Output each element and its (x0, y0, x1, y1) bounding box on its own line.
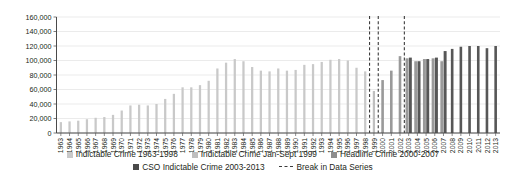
legend-row-2: CSO Indictable Crime 2003-2013 Break in … (0, 163, 506, 173)
bar (312, 64, 314, 133)
bar (147, 105, 149, 133)
legend-item-headline-2000-2007: Headline Crime 2000-2007 (331, 150, 439, 160)
bar (355, 68, 357, 133)
bar (347, 61, 349, 134)
y-axis-tick-label: 100,000 (26, 56, 52, 65)
legend-swatch-cso-2003-2013 (133, 164, 139, 170)
bar (242, 61, 244, 133)
y-axis-tick-label: 0 (48, 129, 52, 138)
legend-item-indictable-jan-sept-1999: Indictable Crime Jan-Sept 1999 (192, 150, 317, 160)
bar (444, 51, 447, 133)
crime-statistics-bar-chart: 160,000140,000120,000100,00080,00060,000… (0, 0, 506, 192)
bar (451, 49, 454, 133)
bar (164, 99, 166, 133)
bar (435, 58, 438, 133)
bar (329, 60, 331, 133)
y-axis-tick-label: 60,000 (30, 85, 52, 94)
bar (477, 46, 480, 133)
legend-label-break-in-data-series: Break in Data Series (297, 163, 373, 173)
bar (321, 62, 323, 133)
bar (129, 105, 131, 133)
bar (60, 122, 62, 133)
y-axis-tick-label: 80,000 (30, 71, 52, 80)
bar (225, 63, 227, 133)
bar (155, 104, 157, 133)
bar (390, 71, 393, 133)
bar (303, 65, 305, 133)
bar (486, 48, 489, 133)
legend-item-cso-2003-2013: CSO Indictable Crime 2003-2013 (133, 163, 264, 173)
bar (181, 87, 183, 133)
bar (103, 117, 105, 133)
legend-swatch-indictable-jan-sept-1999 (192, 152, 198, 158)
bar (251, 67, 253, 133)
bar (199, 85, 201, 133)
legend-label-indictable-jan-sept-1999: Indictable Crime Jan-Sept 1999 (201, 150, 317, 160)
bar (373, 91, 375, 133)
legend-item-indictable-1963-1998: Indictable Crime 1963-1998 (67, 150, 178, 160)
bar (440, 61, 443, 133)
legend-label-indictable-1963-1998: Indictable Crime 1963-1998 (76, 150, 178, 160)
bar (399, 56, 402, 133)
y-axis-tick-label: 20,000 (30, 114, 52, 123)
bar (277, 68, 279, 133)
bar (494, 46, 497, 133)
bar (268, 71, 270, 133)
bar (364, 71, 366, 133)
bar (418, 61, 421, 133)
legend-label-headline-2000-2007: Headline Crime 2000-2007 (340, 150, 439, 160)
bar (338, 59, 340, 133)
legend-dashed-line-icon (279, 166, 293, 167)
bar (190, 87, 192, 133)
bar (95, 118, 97, 133)
legend-swatch-indictable-1963-1998 (67, 152, 73, 158)
bar (286, 71, 288, 133)
bar (381, 80, 384, 133)
bar (173, 94, 175, 133)
bar (409, 58, 412, 133)
y-axis-tick-label: 40,000 (30, 100, 52, 109)
bar (460, 47, 463, 133)
bar (112, 115, 114, 133)
legend-label-cso-2003-2013: CSO Indictable Crime 2003-2013 (142, 163, 264, 173)
bar (216, 68, 218, 133)
bar (468, 46, 471, 133)
bar (406, 58, 409, 133)
y-axis-tick-label: 120,000 (26, 42, 52, 51)
y-axis-tick-label: 140,000 (26, 27, 52, 36)
bar (426, 59, 429, 133)
bar (68, 121, 70, 133)
bar (260, 71, 262, 133)
legend-swatch-headline-2000-2007 (331, 152, 337, 158)
bar (432, 58, 435, 133)
bar (121, 111, 123, 133)
bar (208, 81, 210, 133)
bar (77, 121, 79, 133)
bar (138, 105, 140, 133)
chart-legend: Indictable Crime 1963-1998 Indictable Cr… (0, 150, 506, 172)
bar (234, 59, 236, 133)
legend-row-1: Indictable Crime 1963-1998 Indictable Cr… (0, 150, 506, 160)
bar (86, 119, 88, 133)
bar (295, 70, 297, 133)
bar (414, 61, 417, 133)
legend-item-break-in-data-series: Break in Data Series (279, 163, 373, 173)
y-axis-tick-label: 160,000 (26, 13, 52, 22)
bar (423, 59, 426, 133)
